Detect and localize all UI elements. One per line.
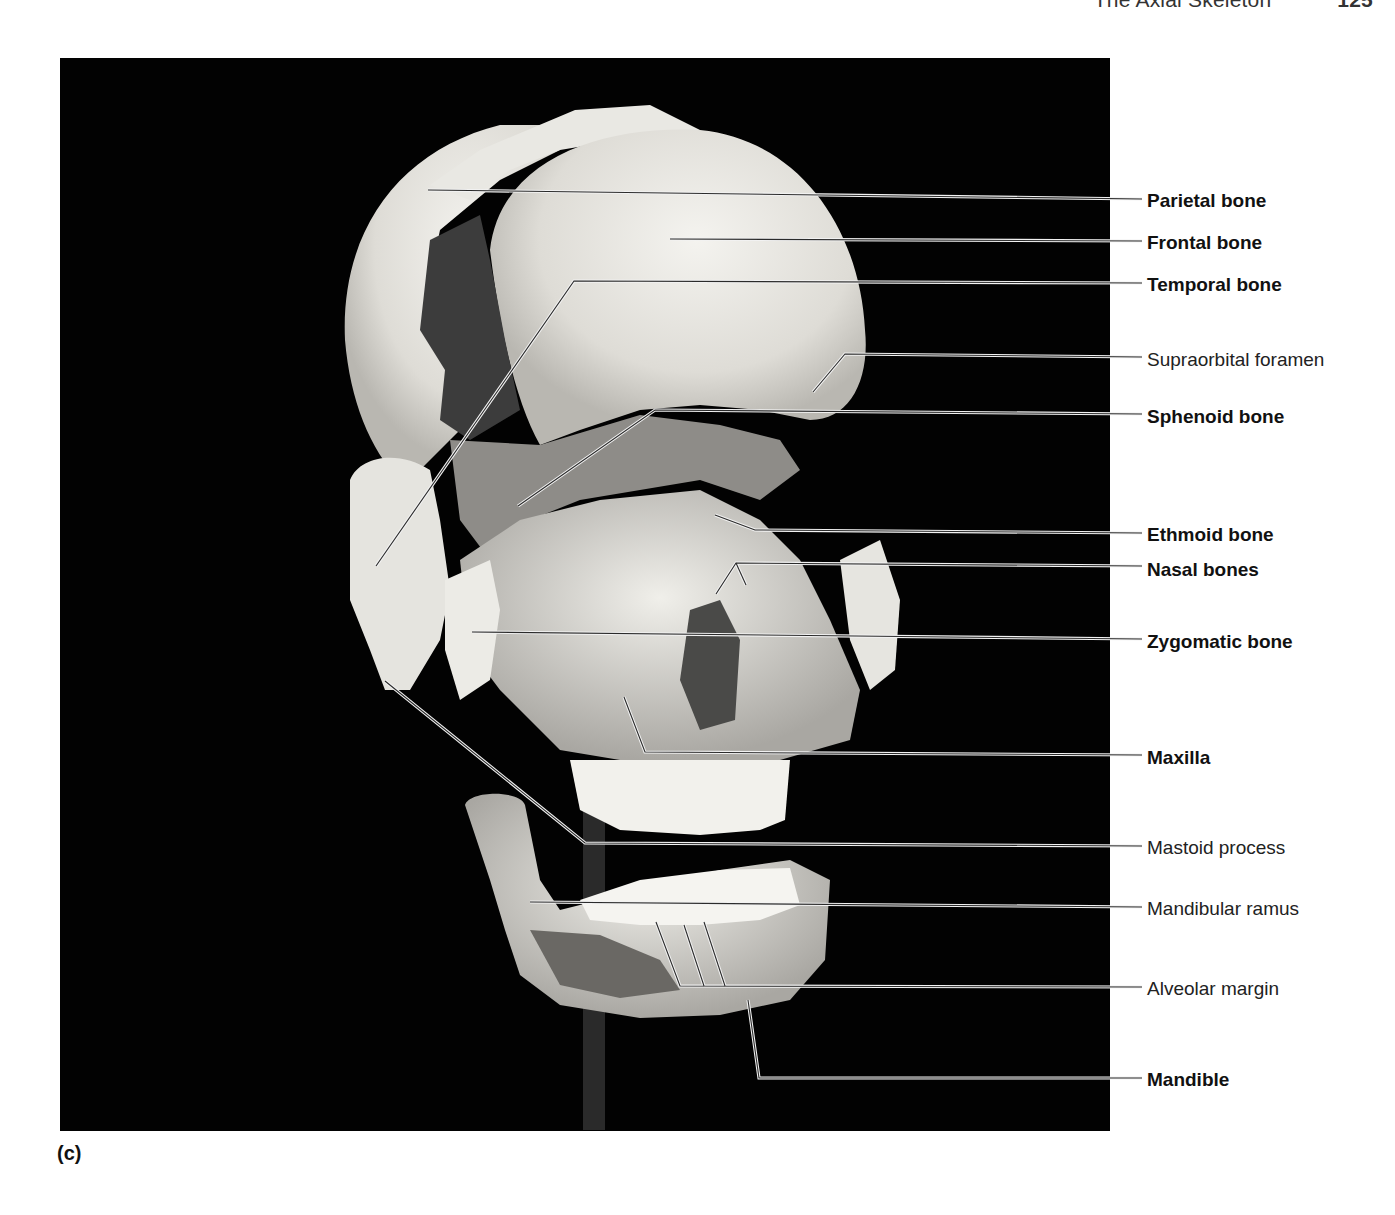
skull-illustration: [0, 0, 1395, 1215]
panel-letter: (c): [57, 1142, 81, 1165]
label-maxilla: Maxilla: [1147, 747, 1210, 769]
label-mandible: Mandible: [1147, 1069, 1229, 1091]
figure: Parietal bone Frontal bone Temporal bone…: [0, 0, 1395, 1215]
label-alveolar-margin: Alveolar margin: [1147, 978, 1279, 1000]
label-mandibular-ramus: Mandibular ramus: [1147, 898, 1299, 920]
label-sphenoid-bone: Sphenoid bone: [1147, 406, 1284, 428]
label-zygomatic-bone: Zygomatic bone: [1147, 631, 1293, 653]
label-frontal-bone: Frontal bone: [1147, 232, 1262, 254]
label-nasal-bones: Nasal bones: [1147, 559, 1259, 581]
label-temporal-bone: Temporal bone: [1147, 274, 1282, 296]
frontal-shape: [490, 130, 866, 445]
temporal-shape: [350, 458, 450, 690]
label-ethmoid-bone: Ethmoid bone: [1147, 524, 1274, 546]
label-supraorbital-foramen: Supraorbital foramen: [1147, 349, 1324, 371]
label-mastoid-process: Mastoid process: [1147, 837, 1285, 859]
label-parietal-bone: Parietal bone: [1147, 190, 1266, 212]
